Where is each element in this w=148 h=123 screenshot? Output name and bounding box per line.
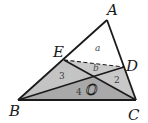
- label-C: C: [128, 106, 140, 123]
- label-A: A: [105, 1, 118, 19]
- label-region-3: 3: [59, 71, 65, 81]
- label-region-b: b: [93, 63, 99, 73]
- label-D: D: [125, 57, 138, 75]
- label-B: B: [8, 102, 20, 120]
- label-region-a: a: [95, 43, 100, 53]
- triangle-diagram: A B C D E O a b 3 2 4: [0, 0, 148, 123]
- label-O: O: [86, 82, 98, 98]
- label-region-4: 4: [76, 87, 82, 97]
- label-E: E: [52, 43, 64, 61]
- label-region-2: 2: [114, 75, 120, 85]
